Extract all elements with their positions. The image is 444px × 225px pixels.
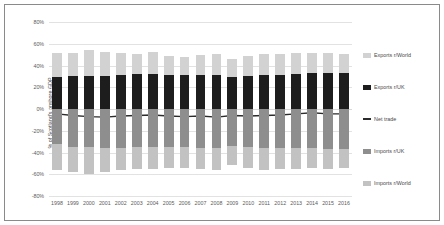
- segment-exports-ruk: [275, 75, 285, 109]
- segment-imports-ruk: [339, 109, 349, 149]
- bar-column: 2006: [180, 22, 190, 196]
- legend-item[interactable]: Exports r/World: [363, 39, 443, 71]
- legend-label: Exports r/World: [374, 52, 411, 58]
- segment-exports-ruk: [164, 75, 174, 109]
- y-axis-tick: 20%: [34, 84, 45, 90]
- bar-column: 2011: [259, 22, 269, 196]
- legend-item[interactable]: Imports r/World: [363, 167, 443, 199]
- segment-exports-ruk: [148, 74, 158, 109]
- segment-imports-ruk: [52, 109, 62, 144]
- legend-label: Exports r/UK: [374, 84, 405, 90]
- segment-imports-rworld: [196, 148, 206, 169]
- bar-column: 1998: [52, 22, 62, 196]
- segment-imports-rworld: [132, 147, 142, 169]
- segment-imports-ruk: [307, 109, 317, 148]
- legend-label: Imports r/World: [374, 180, 411, 186]
- segment-exports-ruk: [100, 76, 110, 109]
- segment-exports-rworld: [180, 57, 190, 75]
- segment-exports-ruk: [212, 75, 222, 109]
- segment-exports-rworld: [100, 52, 110, 75]
- x-axis-tick: 2008: [211, 200, 223, 206]
- segment-exports-rworld: [212, 54, 222, 75]
- segment-imports-ruk: [132, 109, 142, 147]
- x-axis-tick: 2006: [179, 200, 191, 206]
- segment-exports-rworld: [164, 56, 174, 74]
- segment-exports-rworld: [275, 54, 285, 75]
- bar-column: 2015: [323, 22, 333, 196]
- x-axis-tick: 2004: [147, 200, 159, 206]
- segment-imports-rworld: [212, 148, 222, 170]
- segment-imports-ruk: [227, 109, 237, 146]
- x-axis-tick: 2002: [115, 200, 127, 206]
- segment-imports-rworld: [227, 146, 237, 165]
- segment-exports-rworld: [148, 52, 158, 73]
- segment-imports-rworld: [68, 147, 78, 172]
- legend-swatch: [363, 149, 371, 154]
- y-axis-tick: -60%: [32, 171, 44, 177]
- segment-imports-ruk: [164, 109, 174, 147]
- segment-exports-rworld: [116, 53, 126, 75]
- segment-exports-ruk: [196, 75, 206, 109]
- legend-item[interactable]: Net trade: [363, 103, 443, 135]
- x-axis-tick: 2012: [274, 200, 286, 206]
- y-axis-tick: -40%: [32, 150, 44, 156]
- segment-imports-ruk: [84, 109, 94, 147]
- segment-exports-ruk: [243, 76, 253, 109]
- segment-exports-ruk: [227, 77, 237, 109]
- segment-exports-rworld: [243, 56, 253, 76]
- x-axis-tick: 2010: [242, 200, 254, 206]
- bar-column: 1999: [68, 22, 78, 196]
- y-axis-tick: 40%: [34, 63, 45, 69]
- segment-exports-ruk: [307, 73, 317, 109]
- legend-swatch: [363, 53, 371, 58]
- legend-swatch: [363, 118, 371, 120]
- segment-imports-ruk: [243, 109, 253, 147]
- x-axis-tick: 1998: [51, 200, 63, 206]
- x-axis-tick: 2003: [131, 200, 143, 206]
- segment-imports-ruk: [116, 109, 126, 148]
- x-axis-tick: 2011: [259, 200, 270, 206]
- legend-label: Net trade: [374, 116, 396, 122]
- segment-imports-ruk: [180, 109, 190, 147]
- segment-exports-rworld: [339, 54, 349, 74]
- x-axis-tick: 2007: [195, 200, 207, 206]
- bar-column: 2012: [275, 22, 285, 196]
- legend-item[interactable]: Imports r/UK: [363, 135, 443, 167]
- segment-exports-ruk: [180, 75, 190, 109]
- segment-imports-rworld: [148, 147, 158, 169]
- legend-item[interactable]: Exports r/UK: [363, 71, 443, 103]
- segment-exports-rworld: [323, 53, 333, 73]
- y-axis-tick: -20%: [32, 128, 44, 134]
- segment-imports-rworld: [275, 148, 285, 170]
- segment-exports-rworld: [196, 55, 206, 75]
- bar-column: 2013: [291, 22, 301, 196]
- bar-column: 2008: [212, 22, 222, 196]
- x-axis-tick: 2016: [338, 200, 350, 206]
- segment-exports-ruk: [84, 76, 94, 109]
- segment-imports-ruk: [68, 109, 78, 147]
- segment-imports-ruk: [323, 109, 333, 149]
- x-axis-tick: 2014: [306, 200, 318, 206]
- bar-column: 2004: [148, 22, 158, 196]
- bar-column: 2007: [196, 22, 206, 196]
- segment-imports-rworld: [259, 148, 269, 170]
- bar-column: 2003: [132, 22, 142, 196]
- segment-exports-ruk: [68, 76, 78, 109]
- bar-column: 2016: [339, 22, 349, 196]
- bar-column: 2014: [307, 22, 317, 196]
- legend-swatch: [363, 181, 371, 186]
- y-axis-tick: 80%: [34, 19, 45, 25]
- segment-exports-rworld: [68, 53, 78, 76]
- segment-imports-rworld: [291, 148, 301, 169]
- segment-imports-ruk: [196, 109, 206, 148]
- segment-exports-rworld: [84, 50, 94, 76]
- segment-imports-ruk: [100, 109, 110, 148]
- segment-imports-ruk: [291, 109, 301, 148]
- bar-column: 2001: [100, 22, 110, 196]
- y-axis-tick: -80%: [32, 193, 44, 199]
- segment-imports-rworld: [180, 147, 190, 168]
- bar-column: 2000: [84, 22, 94, 196]
- segment-exports-ruk: [132, 74, 142, 109]
- segment-exports-ruk: [116, 75, 126, 109]
- x-axis-tick: 2001: [99, 200, 111, 206]
